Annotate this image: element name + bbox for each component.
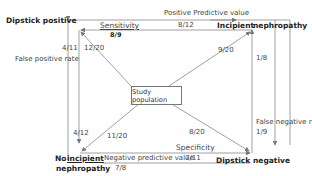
node-dipstick-negative-b: negative — [253, 157, 290, 165]
study-population-box: Study population — [131, 86, 182, 105]
label-specificity: Specificity — [176, 144, 215, 152]
label-sensitivity: Sensitivity — [100, 22, 139, 30]
node-dipstick-negative-a: Dipstick — [216, 157, 250, 165]
label-fpr: False positive rate — [15, 56, 79, 63]
label-tr-diag: 9/20 — [218, 47, 234, 54]
label-sensitivity-value: 8/9 — [110, 32, 121, 39]
label-ppv: Positive Predictive value — [164, 10, 249, 17]
node-incipient-nephropathy-b: nephropathy — [253, 22, 307, 30]
node-incipient-nephropathy-a: Incipient — [217, 22, 254, 30]
node-dipstick-positive: Dipstick positive — [6, 17, 77, 25]
label-bl-bottom: 7/8 — [115, 165, 126, 172]
label-tr-vert: 1/8 — [256, 55, 267, 62]
label-npv-value: 7/11 — [185, 155, 201, 162]
label-br-diag: 8/20 — [189, 129, 205, 136]
label-tl-diag: 12/20 — [84, 45, 104, 52]
label-npv: Negative predictive value — [104, 155, 194, 162]
diag-tl — [81, 32, 131, 86]
label-fnr: False negative rate — [256, 119, 312, 126]
label-ppv-value: 8/12 — [178, 22, 194, 29]
diag-bl — [82, 103, 140, 151]
node-no-incipient-a: No — [55, 155, 66, 163]
diag-tr — [169, 32, 250, 86]
label-bl-vert: 4/12 — [73, 130, 89, 137]
node-no-incipient-b: incipient — [67, 155, 104, 163]
label-bl-diag: 11/20 — [107, 133, 127, 140]
study-population-label: Study population — [132, 88, 181, 104]
label-fpr-value: 4/11 — [62, 45, 78, 52]
label-fnr-value: 1/9 — [256, 129, 267, 136]
node-no-incipient-c: nephropathy — [56, 165, 110, 173]
